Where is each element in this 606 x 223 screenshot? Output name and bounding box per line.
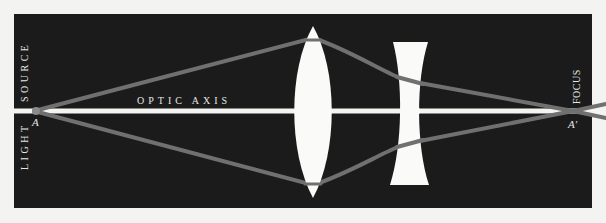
focus-point-label: A′ <box>567 118 578 130</box>
optic-axis-label: OPTIC AXIS <box>137 95 231 106</box>
optics-diagram: LIGHT SOURCE OPTIC AXIS A FOCUS A′ <box>0 0 606 223</box>
focus-label: FOCUS <box>571 69 582 104</box>
source-point-marker <box>32 107 40 115</box>
source-label: SOURCE <box>19 42 30 102</box>
light-label: LIGHT <box>19 123 30 171</box>
source-point-label: A <box>31 116 39 128</box>
